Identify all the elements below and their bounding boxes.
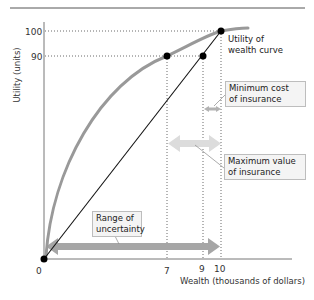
maximum-value-line1: Maximum value [228, 156, 302, 167]
range-of-uncertainty-arrow [46, 238, 220, 255]
utility-curve-label-line1: Utility of [228, 34, 283, 45]
x-tick-7: 7 [164, 266, 170, 276]
maximum-value-line2: of insurance [228, 167, 302, 178]
minimum-cost-arrow [204, 106, 221, 112]
maximum-value-arrow [168, 135, 221, 152]
minimum-cost-note: Minimum cost of insurance [225, 81, 306, 107]
range-line1: Range of [96, 213, 138, 224]
x-tick-10: 10 [214, 264, 226, 274]
range-line2: uncertainty [96, 224, 138, 235]
minimum-cost-line1: Minimum cost [229, 83, 302, 94]
y-tick-100: 100 [25, 27, 42, 37]
y-axis-label: Utility (units) [12, 47, 22, 102]
x-tick-9: 9 [199, 264, 205, 274]
minimum-cost-line2: of insurance [229, 94, 302, 105]
range-of-uncertainty-note: Range of uncertainty [92, 211, 142, 237]
x-tick-0: 0 [36, 266, 42, 276]
utility-curve-label-line2: wealth curve [228, 45, 283, 56]
utility-curve-label: Utility of wealth curve [228, 34, 283, 56]
maximum-value-note: Maximum value of insurance [224, 154, 306, 180]
y-tick-90: 90 [31, 52, 43, 62]
x-axis-label: Wealth (thousands of dollars) [180, 276, 305, 286]
